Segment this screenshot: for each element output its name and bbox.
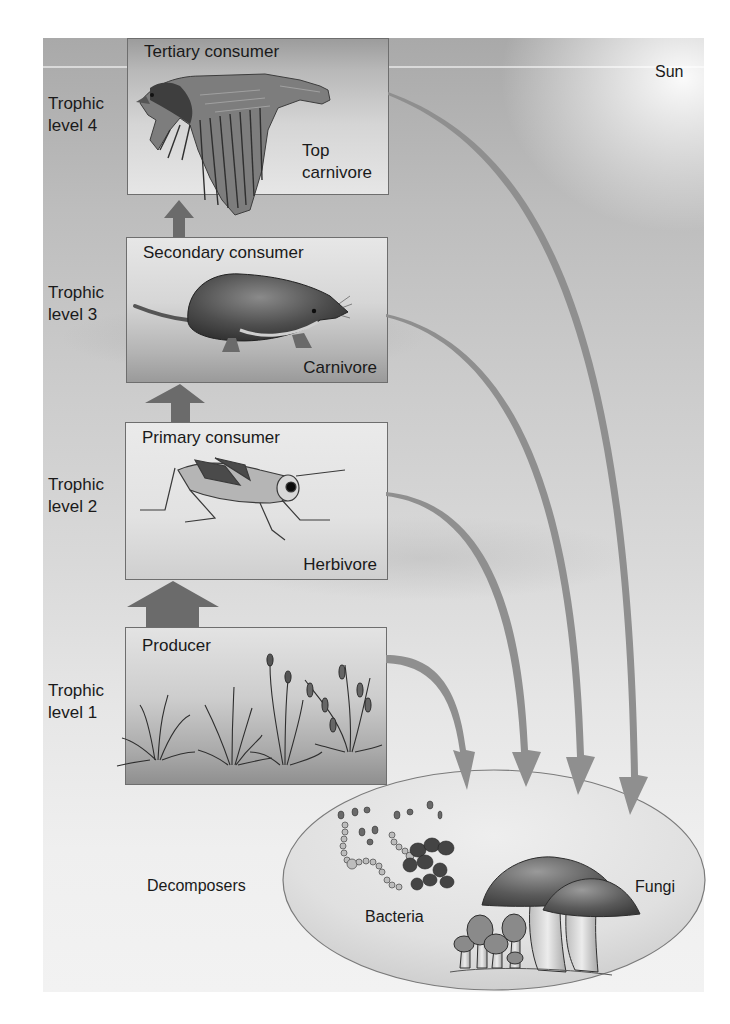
arrow-level3-to-decomposers xyxy=(386,314,595,795)
grass-clump-4 xyxy=(305,665,382,752)
arrow-level1-to-decomposers xyxy=(386,655,475,790)
diagram-graphics xyxy=(0,0,730,1024)
arrow-up-level1-to-level2 xyxy=(127,581,219,627)
shrew-illustration xyxy=(135,274,352,352)
fungi-label: Fungi xyxy=(635,878,675,896)
hawk-illustration xyxy=(136,74,330,215)
upward-energy-arrows xyxy=(127,200,219,627)
grasshopper-illustration xyxy=(140,458,345,540)
arrow-up-level2-to-level3 xyxy=(145,384,205,422)
grass-clump-1 xyxy=(117,695,195,766)
arrow-up-level3-to-level4 xyxy=(164,200,194,237)
bacteria-label: Bacteria xyxy=(365,908,424,926)
decomposers-label: Decomposers xyxy=(147,877,246,895)
grass-clump-3 xyxy=(250,654,322,765)
food-chain-diagram: Sun Trophic level 4 Trophic level 3 Trop… xyxy=(0,0,730,1024)
decomposer-energy-arrows xyxy=(386,92,648,815)
grass-plants-illustration xyxy=(117,654,382,766)
